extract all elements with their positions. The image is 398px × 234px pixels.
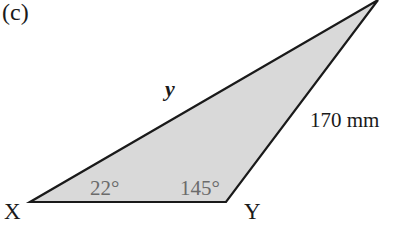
triangle-diagram: (c) y 170 mm 22° 145° X Y xyxy=(0,0,398,234)
side-label-170mm: 170 mm xyxy=(310,110,379,131)
side-label-y: y xyxy=(165,78,175,100)
vertex-label-x: X xyxy=(4,200,21,223)
angle-label-x: 22° xyxy=(90,178,119,199)
angle-label-y: 145° xyxy=(180,178,220,199)
vertex-label-y: Y xyxy=(244,200,261,223)
part-label: (c) xyxy=(2,0,29,24)
